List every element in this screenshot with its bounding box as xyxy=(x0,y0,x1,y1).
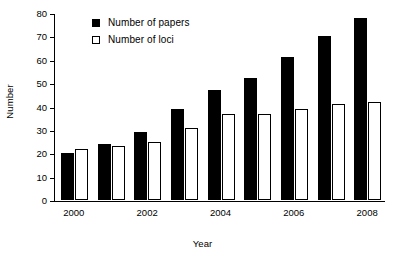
y-tick-mark xyxy=(50,14,55,15)
filled-square-icon xyxy=(92,19,100,27)
bar-loci-2003 xyxy=(185,128,198,200)
y-tick-mark xyxy=(50,61,55,62)
bar-papers-2008 xyxy=(354,18,367,200)
legend-label-loci: Number of loci xyxy=(108,34,174,45)
bar-papers-2006 xyxy=(281,57,294,200)
y-tick-label: 20 xyxy=(36,148,47,159)
bar-loci-2005 xyxy=(258,114,271,200)
bar-loci-2000 xyxy=(75,149,88,200)
x-axis-line xyxy=(54,201,385,202)
x-tick-label-2006: 2006 xyxy=(283,207,304,218)
y-tick: 80 xyxy=(54,14,55,15)
bar-papers-2000 xyxy=(61,153,74,200)
x-tick-label-2004: 2004 xyxy=(210,207,231,218)
y-tick: 60 xyxy=(54,61,55,62)
bar-papers-2001 xyxy=(98,144,111,200)
open-square-icon xyxy=(92,36,100,44)
bar-loci-2006 xyxy=(295,109,308,200)
y-tick-label: 30 xyxy=(36,125,47,136)
y-tick-mark xyxy=(50,154,55,155)
y-tick-mark xyxy=(50,131,55,132)
bar-papers-2007 xyxy=(318,36,331,200)
y-tick: 50 xyxy=(54,84,55,85)
bar-papers-2002 xyxy=(134,132,147,200)
y-tick-label: 70 xyxy=(36,31,47,42)
x-tick-label-2002: 2002 xyxy=(137,207,158,218)
y-tick-mark xyxy=(50,201,55,202)
bar-loci-2008 xyxy=(368,102,381,200)
y-tick: 30 xyxy=(54,131,55,132)
y-tick: 0 xyxy=(54,201,55,202)
y-tick-label: 40 xyxy=(36,102,47,113)
bar-loci-2004 xyxy=(222,114,235,200)
y-tick-label: 10 xyxy=(36,172,47,183)
bar-loci-2001 xyxy=(112,146,125,200)
y-tick-mark xyxy=(50,108,55,109)
bar-papers-2005 xyxy=(244,78,257,200)
bar-loci-2007 xyxy=(332,104,345,200)
y-tick-label: 60 xyxy=(36,55,47,66)
legend-item-papers: Number of papers xyxy=(92,14,190,31)
x-tick-label-2008: 2008 xyxy=(357,207,378,218)
y-tick-mark xyxy=(50,37,55,38)
y-tick-label: 50 xyxy=(36,78,47,89)
y-tick: 10 xyxy=(54,178,55,179)
y-tick-mark xyxy=(50,84,55,85)
y-tick: 40 xyxy=(54,108,55,109)
y-tick: 70 xyxy=(54,37,55,38)
legend-item-loci: Number of loci xyxy=(92,31,190,48)
y-axis-title: Number xyxy=(4,72,15,132)
x-axis-title: Year xyxy=(0,238,405,249)
chart-legend: Number of papers Number of loci xyxy=(92,14,190,48)
bar-papers-2003 xyxy=(171,109,184,200)
y-tick-label: 0 xyxy=(42,195,47,206)
bar-loci-2002 xyxy=(148,142,161,200)
legend-label-papers: Number of papers xyxy=(108,17,190,28)
y-tick-mark xyxy=(50,178,55,179)
x-tick-label-2000: 2000 xyxy=(63,207,84,218)
bar-chart-figure: Number 01020304050607080 200020022004200… xyxy=(0,0,405,260)
y-tick: 20 xyxy=(54,154,55,155)
y-tick-label: 80 xyxy=(36,8,47,19)
bar-papers-2004 xyxy=(208,90,221,200)
